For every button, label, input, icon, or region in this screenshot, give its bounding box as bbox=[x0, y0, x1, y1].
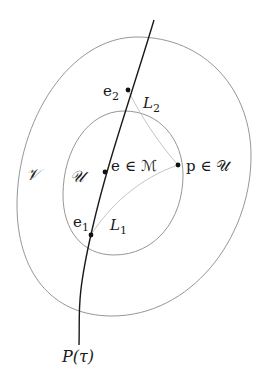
point-p bbox=[176, 163, 181, 168]
label-p-in-u: p ∈ 𝒰 bbox=[186, 157, 232, 175]
label-e1: e1 bbox=[73, 213, 89, 234]
connection-l1 bbox=[91, 165, 178, 235]
label-e2: e2 bbox=[103, 82, 119, 103]
label-l1: L1 bbox=[109, 216, 127, 237]
outer-region-v-outline bbox=[17, 37, 251, 316]
point-e2 bbox=[126, 88, 131, 93]
label-l2: L2 bbox=[142, 94, 160, 115]
label-e-in-m: e ∈ ℳ bbox=[111, 157, 157, 175]
point-e bbox=[103, 170, 108, 175]
label-curve-p-tau: P(τ) bbox=[61, 347, 94, 366]
label-region-v: 𝒱 bbox=[26, 165, 45, 184]
diagram-canvas: e2 L2 e ∈ ℳ p ∈ 𝒰 𝒱 𝒰 e1 L1 P(τ) bbox=[0, 0, 264, 386]
point-e1 bbox=[89, 233, 94, 238]
label-region-u: 𝒰 bbox=[70, 167, 89, 186]
